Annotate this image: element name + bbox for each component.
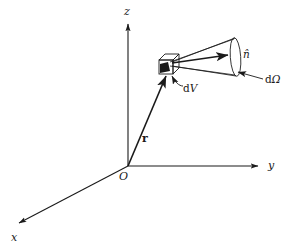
dv-leader-line — [172, 76, 183, 86]
domega-leader-line — [238, 72, 263, 79]
x-axis — [19, 166, 128, 223]
volume-element-label: dV — [183, 83, 197, 94]
dv-leader-group — [172, 76, 183, 86]
direction-unit-vector-label: n̂ — [243, 49, 250, 60]
cube-inner-shade — [160, 62, 170, 73]
solid-angle-diagram: z y x O r dV n̂ dΩ — [0, 0, 287, 251]
volume-element-cube — [159, 54, 179, 74]
axis-label-x: x — [11, 232, 17, 243]
solid-angle-label: dΩ — [265, 74, 280, 85]
position-vector-r — [128, 76, 166, 166]
axis-label-z: z — [124, 6, 130, 17]
position-vector-group — [128, 76, 166, 166]
solid-angle-differential: d — [265, 73, 272, 85]
domega-leader-group — [238, 72, 263, 79]
cone-apex-rays — [170, 39, 235, 75]
volume-element-symbol: V — [190, 82, 198, 94]
apex-ray-bottom — [170, 66, 235, 75]
origin-label: O — [119, 171, 128, 182]
cube-right-face — [173, 54, 179, 74]
cone-base-ellipse — [229, 37, 242, 76]
solid-angle-symbol: Ω — [272, 73, 281, 85]
diagram-canvas — [0, 0, 287, 251]
axis-label-y: y — [268, 160, 274, 171]
volume-element-differential: d — [183, 82, 190, 94]
axes-group — [19, 24, 258, 223]
position-vector-label: r — [142, 133, 148, 144]
